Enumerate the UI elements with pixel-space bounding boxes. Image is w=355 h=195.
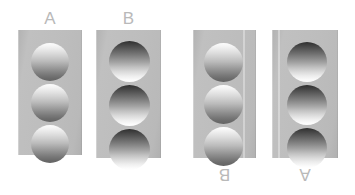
panel-a [18, 30, 82, 155]
disc-concave [287, 128, 327, 168]
disc-concave [287, 85, 327, 125]
disc-concave [109, 85, 150, 126]
disc-concave [287, 42, 327, 82]
disc-concave [109, 129, 150, 170]
disc-convex [31, 43, 69, 81]
panel-b-rotated [193, 30, 256, 158]
disc-convex [204, 127, 243, 166]
panel-label-b-top: B [96, 10, 161, 27]
panel-label-a-bottom: A [272, 166, 338, 183]
disc-convex [204, 43, 243, 82]
panel-seam [243, 30, 245, 158]
panel-label-b-bottom: B [193, 166, 256, 183]
panel-label-a-top: A [18, 10, 82, 27]
panel-seam [278, 30, 280, 158]
disc-convex [204, 85, 243, 124]
panel-b [96, 30, 161, 158]
shape-from-shading-figure: A B B A [0, 0, 355, 195]
disc-convex [31, 84, 69, 122]
disc-concave [109, 41, 150, 82]
panel-a-rotated [272, 30, 338, 158]
disc-convex [31, 125, 69, 163]
